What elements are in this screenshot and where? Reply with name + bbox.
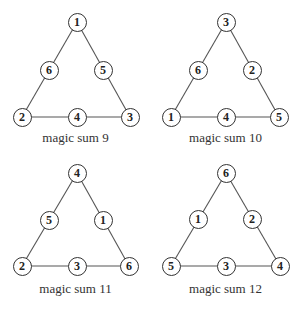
node-left-mid: 6 <box>40 61 59 80</box>
node-right-mid: 2 <box>243 61 262 80</box>
node-bottom-left: 2 <box>13 108 32 127</box>
node-bottom-mid: 3 <box>217 257 236 276</box>
diagram-caption: magic sum 11 <box>0 281 151 297</box>
diagram-caption: magic sum 9 <box>0 130 151 146</box>
node-top: 4 <box>68 164 87 183</box>
node-bottom-left: 5 <box>162 257 181 276</box>
node-left-mid: 1 <box>189 210 208 229</box>
node-top: 3 <box>217 13 236 32</box>
node-top: 1 <box>68 13 87 32</box>
node-top: 6 <box>217 164 236 183</box>
magic-triangle-diagram: 1 6 5 2 4 3 magic sum 9 <box>0 0 151 155</box>
node-bottom-mid: 4 <box>68 108 87 127</box>
node-left-mid: 6 <box>189 61 208 80</box>
node-bottom-right: 3 <box>121 108 140 127</box>
magic-triangle-diagram: 6 1 2 5 3 4 magic sum 12 <box>150 152 301 307</box>
node-right-mid: 5 <box>94 61 113 80</box>
node-left-mid: 5 <box>40 211 59 230</box>
diagram-caption: magic sum 12 <box>150 281 301 297</box>
magic-triangle-diagram: 4 5 1 2 3 6 magic sum 11 <box>0 152 151 307</box>
node-bottom-left: 2 <box>13 257 32 276</box>
node-bottom-mid: 4 <box>217 108 236 127</box>
node-right-mid: 1 <box>94 211 113 230</box>
node-right-mid: 2 <box>243 210 262 229</box>
magic-triangle-figure: 1 6 5 2 4 3 magic sum 9 3 6 2 1 4 5 magi… <box>0 0 303 310</box>
node-bottom-right: 4 <box>271 257 290 276</box>
magic-triangle-diagram: 3 6 2 1 4 5 magic sum 10 <box>150 0 301 155</box>
node-bottom-mid: 3 <box>68 257 87 276</box>
node-bottom-right: 5 <box>270 108 289 127</box>
node-bottom-left: 1 <box>162 108 181 127</box>
node-bottom-right: 6 <box>120 257 139 276</box>
diagram-caption: magic sum 10 <box>150 130 301 146</box>
